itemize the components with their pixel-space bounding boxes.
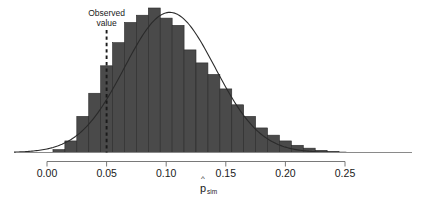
histogram-bar xyxy=(244,116,256,152)
x-axis-tick-labels: 0.000.050.100.150.200.25 xyxy=(37,167,356,179)
histogram-bar xyxy=(208,74,220,152)
observed-value-label-line1: Observed xyxy=(88,8,125,18)
plot-area: 0.000.050.100.150.200.25 Observed value … xyxy=(0,0,425,200)
histogram-bar xyxy=(113,43,125,153)
x-axis-title: ^ p sim xyxy=(200,174,217,195)
histogram-bar xyxy=(124,22,136,152)
x-axis-tick-label: 0.10 xyxy=(156,167,177,179)
histogram-bar xyxy=(184,50,196,153)
histogram-bar xyxy=(220,89,232,153)
x-axis-title-base: p xyxy=(200,182,206,194)
x-axis-tick-label: 0.25 xyxy=(335,167,356,179)
histogram-bars xyxy=(53,8,339,153)
x-axis-title-subscript: sim xyxy=(207,188,217,195)
histogram-bar xyxy=(148,8,160,153)
histogram-bar xyxy=(232,105,244,153)
histogram-chart: 0.000.050.100.150.200.25 Observed value … xyxy=(0,0,425,200)
x-axis-tick-label: 0.20 xyxy=(275,167,296,179)
histogram-bar xyxy=(196,63,208,153)
histogram-bar xyxy=(172,25,184,152)
x-axis-tick-label: 0.00 xyxy=(37,167,58,179)
observed-value-label-line2: value xyxy=(96,18,117,28)
x-axis-tick-label: 0.15 xyxy=(216,167,237,179)
histogram-bar xyxy=(160,18,172,152)
x-axis-ticks xyxy=(47,162,345,167)
histogram-bar xyxy=(65,141,77,153)
x-axis-tick-label: 0.05 xyxy=(96,167,117,179)
